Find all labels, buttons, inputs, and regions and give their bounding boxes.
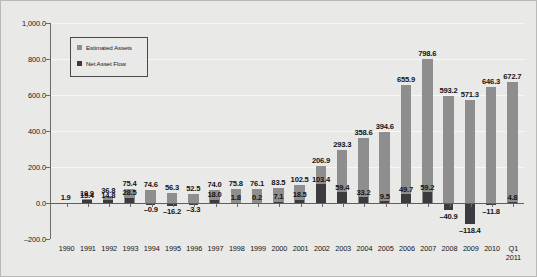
x-axis-tick-mark [343, 204, 344, 207]
x-axis-label-line: 2009 [463, 244, 479, 253]
data-label-estimated-assets: 672.7 [503, 72, 521, 81]
data-label-net-asset-flow: –40.9 [440, 212, 458, 221]
x-axis-label-line: 2007 [420, 244, 436, 253]
data-label-net-asset-flow: 7.1 [273, 192, 283, 201]
data-label-estimated-assets: 655.9 [397, 75, 415, 84]
x-axis-tick-mark [322, 204, 323, 207]
x-axis-tick-mark [194, 204, 195, 207]
x-axis-label-line: 2008 [442, 244, 458, 253]
data-label-estimated-assets: 83.5 [271, 178, 285, 187]
data-label-net-asset-flow: –11.8 [482, 207, 500, 216]
y-axis-tick-mark [46, 59, 50, 60]
data-label-net-asset-flow: 9.5 [380, 192, 390, 201]
x-axis-tick-mark [109, 204, 110, 207]
x-axis-tick-mark [67, 204, 68, 207]
data-label-net-asset-flow: –0.9 [144, 205, 158, 214]
x-axis-category-label: 1998 [229, 244, 245, 253]
legend-label-estimated-assets: Estimated Assets [86, 44, 132, 51]
x-axis-category-label: 1995 [165, 244, 181, 253]
x-axis-label-line: 1997 [208, 244, 224, 253]
legend-item-net-asset-flow: Net Asset Flow [77, 59, 142, 68]
data-label-net-asset-flow: 28.5 [122, 188, 136, 197]
x-axis-category-label: 1992 [101, 244, 117, 253]
x-axis-tick-mark [513, 204, 514, 207]
data-label-net-asset-flow: –3.3 [186, 205, 200, 214]
data-label-net-asset-flow: 33.2 [356, 188, 370, 197]
x-axis-tick-mark [258, 204, 259, 207]
data-label-estimated-assets: 593.2 [440, 86, 458, 95]
x-axis-category-label: 1991 [80, 244, 96, 253]
x-axis-category-label: 1990 [59, 244, 75, 253]
bar-estimated-assets [145, 190, 156, 203]
legend-item-estimated-assets: Estimated Assets [77, 43, 142, 52]
data-label-estimated-assets: 1.9 [61, 193, 71, 202]
x-axis-label-line: 2010 [484, 244, 500, 253]
data-label-estimated-assets: 102.5 [291, 175, 309, 184]
x-axis-line [50, 203, 524, 204]
x-axis-label-line: 2006 [399, 244, 415, 253]
data-label-estimated-assets: 394.6 [376, 122, 394, 131]
x-axis-label-line: 1998 [229, 244, 245, 253]
x-axis-tick-mark [216, 204, 217, 207]
x-axis-tick-mark [364, 204, 365, 207]
x-axis-category-label: 1996 [186, 244, 202, 253]
x-axis-tick-mark [152, 204, 153, 207]
bar-net-asset-flow [316, 184, 326, 203]
chart-figure: 1.919.915.436.814.875.428.574.6–0.956.3–… [0, 0, 537, 277]
x-axis-label-line: 1992 [101, 244, 117, 253]
x-axis-category-label: 2006 [399, 244, 415, 253]
data-label-estimated-assets: 571.3 [461, 90, 479, 99]
data-label-estimated-assets: 798.6 [418, 49, 436, 58]
data-label-net-asset-flow: –118.4 [459, 226, 481, 235]
x-axis-category-label: 1997 [208, 244, 224, 253]
x-axis-category-label: 2002 [314, 244, 330, 253]
data-label-estimated-assets: 358.6 [354, 128, 372, 137]
y-axis-tick-mark [46, 95, 50, 96]
x-axis-tick-mark [237, 204, 238, 207]
x-axis-category-label: 2005 [378, 244, 394, 253]
x-axis-label-line: Q1 [509, 244, 519, 253]
data-label-estimated-assets: 76.1 [250, 179, 264, 188]
x-axis-label-line: 1994 [144, 244, 160, 253]
data-label-net-asset-flow: 59.2 [420, 183, 434, 192]
x-axis-tick-mark [492, 204, 493, 207]
x-axis-label-line: 2002 [314, 244, 330, 253]
x-axis-label-line: 2005 [378, 244, 394, 253]
bar-estimated-assets [465, 100, 476, 203]
y-axis-tick-mark [46, 239, 50, 240]
data-label-net-asset-flow: 103.4 [312, 175, 330, 184]
data-label-net-asset-flow: 18.0 [208, 190, 222, 199]
y-axis-tick-mark [46, 203, 50, 204]
x-axis-category-label: 1994 [144, 244, 160, 253]
x-axis-category-label: 2001 [293, 244, 309, 253]
data-label-net-asset-flow: 0.2 [252, 193, 262, 202]
bar-net-asset-flow [444, 203, 454, 210]
data-label-estimated-assets: 74.6 [144, 180, 158, 189]
data-label-estimated-assets: 56.3 [165, 183, 179, 192]
x-axis-label-line: 2004 [357, 244, 373, 253]
x-axis-tick-mark [88, 204, 89, 207]
x-axis-tick-mark [279, 204, 280, 207]
x-axis-category-label: 2008 [442, 244, 458, 253]
x-axis-label-line: 2000 [271, 244, 287, 253]
legend-swatch-icon-estimated-assets [77, 45, 82, 50]
bar-estimated-assets [422, 59, 433, 203]
x-axis-category-label: Q12011 [506, 244, 521, 262]
x-axis-category-label: 2004 [357, 244, 373, 253]
x-axis-label-line: 1995 [165, 244, 181, 253]
x-axis-tick-mark [471, 204, 472, 207]
data-label-estimated-assets: 206.9 [312, 156, 330, 165]
x-axis-tick-mark [386, 204, 387, 207]
x-axis-category-label: 2000 [271, 244, 287, 253]
x-axis-tick-mark [450, 204, 451, 207]
data-label-net-asset-flow: 59.4 [335, 183, 349, 192]
bar-net-asset-flow [401, 194, 411, 203]
data-label-net-asset-flow: 15.4 [80, 191, 94, 200]
legend-label-net-asset-flow: Net Asset Flow [86, 60, 126, 67]
x-axis-category-label: 2003 [335, 244, 351, 253]
bar-estimated-assets [188, 194, 199, 203]
bar-estimated-assets [167, 193, 178, 203]
data-label-estimated-assets: 74.0 [208, 180, 222, 189]
x-axis-tick-mark [173, 204, 174, 207]
chart-legend: Estimated Assets Net Asset Flow [70, 37, 148, 77]
